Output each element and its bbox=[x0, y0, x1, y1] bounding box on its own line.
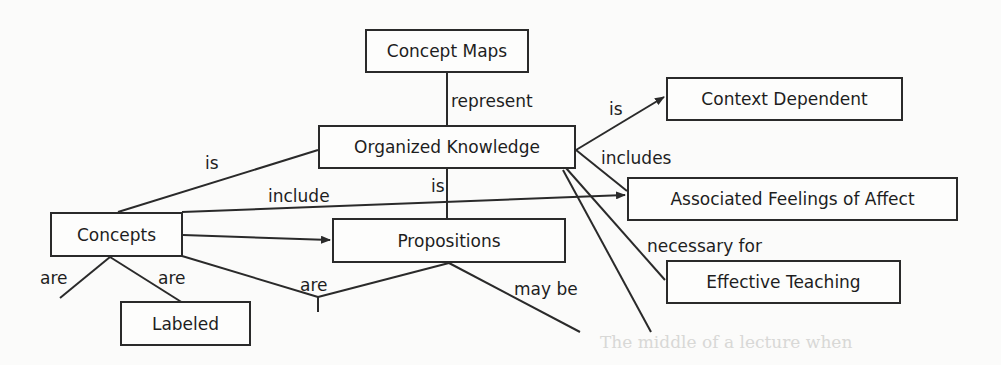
node-concept-maps: Concept Maps bbox=[365, 29, 529, 73]
node-propositions: Propositions bbox=[332, 218, 566, 263]
link-label-is-concepts: is bbox=[205, 155, 219, 172]
link-label-includes: includes bbox=[601, 150, 671, 167]
node-organized-knowledge: Organized Knowledge bbox=[318, 125, 576, 169]
node-associated-feelings: Associated Feelings of Affect bbox=[627, 177, 958, 221]
link-label-are-left: are bbox=[40, 270, 68, 287]
link-label-represent: represent bbox=[451, 93, 533, 110]
link-label-necessary-for: necessary for bbox=[647, 238, 762, 255]
node-effective-teaching: Effective Teaching bbox=[666, 260, 901, 304]
link-label-are-mid: are bbox=[300, 277, 328, 294]
link-label-may-be: may be bbox=[514, 281, 578, 298]
concept-map-diagram: Concept Maps Organized Knowledge Context… bbox=[0, 0, 1001, 365]
node-concepts: Concepts bbox=[50, 212, 183, 257]
node-context-dependent: Context Dependent bbox=[666, 77, 903, 121]
link-label-is-context: is bbox=[609, 101, 623, 118]
bleed-through-text: The middle of a lecture when bbox=[600, 332, 852, 352]
link-label-include: include bbox=[268, 188, 330, 205]
link-label-are-labeled: are bbox=[158, 270, 186, 287]
link-label-is-propositions: is bbox=[431, 178, 445, 195]
node-labeled: Labeled bbox=[120, 301, 251, 346]
